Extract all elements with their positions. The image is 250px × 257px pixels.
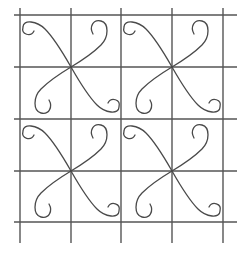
curl-down-right: [172, 171, 220, 216]
curl-up-left: [124, 126, 172, 171]
curl-up-right: [172, 125, 208, 171]
curl-down-right: [71, 67, 119, 112]
curl-up-left: [23, 126, 71, 171]
pattern-canvas: [0, 0, 250, 257]
curl-down-right: [71, 171, 119, 216]
curl-down-left: [35, 67, 71, 113]
curl-down-left: [136, 171, 172, 217]
curl-up-left: [23, 22, 71, 67]
curl-up-right: [71, 125, 107, 171]
curl-down-right: [172, 67, 220, 112]
curl-down-left: [136, 67, 172, 113]
curl-down-left: [35, 171, 71, 217]
curl-up-left: [124, 22, 172, 67]
curl-up-right: [71, 21, 107, 67]
curl-up-right: [172, 21, 208, 67]
